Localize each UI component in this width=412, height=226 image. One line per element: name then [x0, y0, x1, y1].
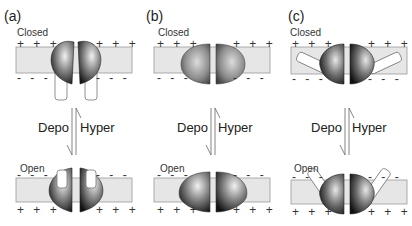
charges-top-below-left-c: - - - — [292, 72, 326, 86]
s4-segment-left-open — [57, 170, 67, 188]
charges-bottom-above-right-a: - - - — [96, 168, 130, 182]
panel-label-c: (c) — [288, 8, 304, 24]
transition-depo-a: Depo — [38, 120, 69, 135]
charges-top-below-right-b: - - - — [233, 71, 267, 85]
transition-hyper-a: Hyper — [80, 120, 115, 135]
diagram-canvas — [0, 0, 412, 226]
panel-label-b: (b) — [146, 8, 163, 24]
charges-bottom-below-right-a: + + + — [96, 203, 139, 217]
charges-bottom-below-right-b: + + + — [233, 203, 276, 217]
charges-top-above-right-b: + + + — [233, 37, 276, 51]
charges-bottom-above-right-b: - - - — [233, 168, 267, 182]
charges-top-above-right-a: + + + — [96, 37, 139, 51]
charges-bottom-above-left-c: - - - — [292, 170, 326, 184]
panel-c — [291, 44, 407, 214]
charges-top-below-left-b: - - - — [157, 71, 191, 85]
charges-bottom-above-left-a: - - - — [17, 168, 51, 182]
charges-top-below-right-c: - - - — [368, 72, 402, 86]
charges-top-below-right-a: - - - — [96, 71, 130, 85]
charges-bottom-below-right-c: + + + — [368, 205, 411, 219]
transition-hyper-c: Hyper — [352, 120, 387, 135]
charges-top-above-left-a: + + + — [17, 37, 60, 51]
transition-depo-c: Depo — [311, 120, 342, 135]
panel-label-a: (a) — [4, 8, 21, 24]
charges-bottom-below-left-b: + + + — [157, 203, 200, 217]
charges-bottom-above-right-c: - - - — [368, 170, 402, 184]
charges-top-above-right-c: + + + — [368, 37, 411, 51]
charges-bottom-below-left-a: + + + — [17, 203, 60, 217]
charges-top-below-left-a: - - - — [17, 71, 51, 85]
s4-segment-right-open — [86, 170, 96, 188]
charges-top-above-left-b: + + + — [157, 37, 200, 51]
transition-depo-b: Depo — [177, 120, 208, 135]
charges-bottom-above-left-b: - - - — [157, 168, 191, 182]
charges-bottom-below-left-c: + + + — [292, 205, 335, 219]
transition-hyper-b: Hyper — [218, 120, 253, 135]
charges-top-above-left-c: + + + — [292, 37, 335, 51]
